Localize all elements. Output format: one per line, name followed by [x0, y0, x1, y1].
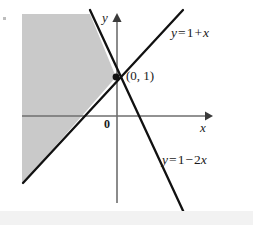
- line-1-sign: +: [193, 25, 203, 40]
- line-2-sign: −: [184, 152, 194, 167]
- intersection-point-marker: [113, 74, 120, 81]
- line-1-variable: x: [203, 25, 209, 40]
- y-axis: [112, 13, 121, 203]
- graph-canvas: [0, 0, 253, 225]
- intersection-point-label: (0, 1): [126, 69, 154, 82]
- x-axis-arrowhead: [205, 112, 213, 121]
- line-2-equation-label: y=1−2x: [162, 153, 207, 167]
- scan-artifact: [3, 17, 6, 20]
- line-2-variable: x: [201, 152, 207, 167]
- line-y-equals-1-minus-2x: [90, 10, 185, 215]
- origin-label: 0: [104, 118, 110, 130]
- line-1-equals: =: [177, 25, 187, 40]
- line-1-equation-label: y=1+x: [171, 26, 209, 40]
- line-2-equals: =: [168, 152, 178, 167]
- page-bottom-band: [0, 211, 253, 225]
- y-axis-label: y: [102, 11, 108, 24]
- line-2-coefficient: 2: [194, 152, 201, 167]
- y-axis-arrowhead: [112, 13, 121, 22]
- x-axis-label: x: [200, 121, 206, 134]
- graph-figure: y x 0 (0, 1) y=1+x y=1−2x: [0, 0, 253, 225]
